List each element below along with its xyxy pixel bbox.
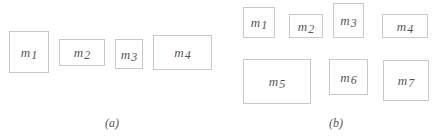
- box-a-m3: m3: [115, 39, 143, 69]
- box-b-m5: m5: [243, 59, 311, 104]
- box-label: m2: [298, 20, 314, 33]
- box-b-m2: m2: [289, 14, 323, 38]
- box-label: m7: [398, 74, 414, 87]
- box-b-m4: m4: [382, 14, 428, 38]
- box-label: m4: [397, 20, 413, 33]
- box-b-m6: m6: [329, 59, 368, 95]
- box-label: m3: [121, 48, 137, 61]
- box-label: m6: [340, 71, 356, 84]
- box-a-m2: m2: [59, 39, 105, 66]
- caption-b: (b): [329, 116, 343, 131]
- box-b-m7: m7: [383, 60, 429, 101]
- diagram-canvas: m1 m2 m3 m4 (a) m1 m2 m3 m4 m5 m6 m7 (b): [0, 0, 440, 137]
- caption-a: (a): [105, 116, 119, 131]
- box-label: m4: [174, 46, 190, 59]
- box-a-m1: m1: [9, 31, 49, 73]
- box-b-m1: m1: [243, 7, 275, 38]
- box-a-m4: m4: [153, 35, 212, 70]
- box-label: m1: [251, 16, 267, 29]
- box-label: m2: [74, 46, 90, 59]
- box-label: m3: [340, 14, 356, 27]
- box-label: m5: [269, 75, 285, 88]
- box-b-m3: m3: [333, 3, 364, 38]
- box-label: m1: [21, 46, 37, 59]
